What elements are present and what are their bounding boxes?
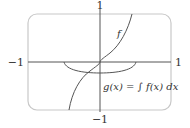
y-max-label: 1 bbox=[97, 0, 104, 12]
curve-f-label: f bbox=[116, 28, 123, 39]
curve-g-label: g(x) = ∫ f(x) dx bbox=[103, 81, 179, 92]
x-min-label: −1 bbox=[8, 56, 24, 69]
y-min-label: −1 bbox=[92, 113, 108, 126]
x-max-label: 1 bbox=[175, 56, 182, 69]
graph-figure: 1 −1 −1 1 f g(x) = ∫ f(x) dx bbox=[0, 0, 190, 128]
